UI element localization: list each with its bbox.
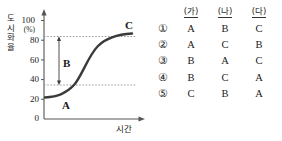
choice-2-ga: A — [174, 37, 208, 53]
y-tick-label-60: 60 — [22, 55, 39, 65]
y-tick-label-20: 20 — [22, 94, 39, 104]
choice-1-da: C — [242, 21, 276, 37]
choice-5-na: B — [208, 86, 242, 102]
table-row[interactable]: ① A B C — [152, 21, 276, 37]
segment-b-arrow — [57, 36, 61, 85]
urbanization-curve-figure: 도 시 화 율 100 (%) 80 60 40 20 0 시간 A B C — [0, 0, 150, 141]
choice-4-da: A — [242, 70, 276, 86]
x-axis — [44, 116, 145, 121]
y-axis-title-char-4: 율 — [4, 43, 17, 53]
choice-5-da: A — [242, 86, 276, 102]
table-row[interactable]: ② A C B — [152, 37, 276, 53]
y-tick-label-40: 40 — [22, 74, 39, 84]
choice-1-ga: A — [174, 21, 208, 37]
header-spacer — [152, 6, 174, 21]
choice-number-5[interactable]: ⑤ — [152, 86, 174, 102]
y-tick-label-0: 0 — [22, 113, 39, 123]
choice-4-na: C — [208, 70, 242, 86]
urbanization-curve — [45, 34, 132, 98]
column-header-na-text: (나) — [218, 6, 233, 18]
table-row[interactable]: ⑤ C B A — [152, 86, 276, 102]
answer-choices-table: (가) (나) (다) ① A B C ② A C B — [150, 0, 282, 141]
choice-3-da: C — [242, 53, 276, 69]
choice-number-1[interactable]: ① — [152, 21, 174, 37]
choice-1-na: B — [208, 21, 242, 37]
choice-3-na: A — [208, 53, 242, 69]
annotation-b: B — [63, 57, 70, 69]
x-axis-title: 시간 — [116, 122, 132, 134]
y-tick-label-80: 80 — [22, 35, 39, 45]
column-header-ga-text: (가) — [184, 6, 199, 18]
choice-number-2[interactable]: ② — [152, 37, 174, 53]
column-header-da-text: (다) — [252, 6, 267, 18]
y-axis — [41, 9, 46, 119]
choice-3-ga: B — [174, 53, 208, 69]
table-row[interactable]: ③ B A C — [152, 53, 276, 69]
guide-lines — [44, 37, 136, 86]
table-row[interactable]: ④ B C A — [152, 70, 276, 86]
column-header-na: (나) — [208, 6, 242, 21]
choices-table: (가) (나) (다) ① A B C ② A C B — [152, 6, 276, 102]
choice-number-3[interactable]: ③ — [152, 53, 174, 69]
choice-4-ga: B — [174, 70, 208, 86]
annotation-a: A — [62, 99, 70, 111]
y-tick-label-100: 100 — [18, 15, 35, 25]
annotation-c: C — [125, 19, 133, 31]
column-header-ga: (가) — [174, 6, 208, 21]
table-header-row: (가) (나) (다) — [152, 6, 276, 21]
y-axis-unit: (%) — [16, 25, 35, 34]
choice-number-4[interactable]: ④ — [152, 70, 174, 86]
column-header-da: (다) — [242, 6, 276, 21]
choice-2-da: B — [242, 37, 276, 53]
choice-5-ga: C — [174, 86, 208, 102]
choice-2-na: C — [208, 37, 242, 53]
